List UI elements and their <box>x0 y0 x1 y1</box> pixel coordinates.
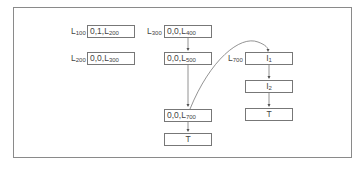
node-terminal-middle: T <box>164 133 212 146</box>
label-l700: L700 <box>228 53 243 66</box>
node-l100: 0,1,L200 <box>87 25 135 38</box>
node-l500: 0,0,L500 <box>164 52 212 65</box>
node-i1: I1 <box>245 52 293 65</box>
label-l300: L300 <box>147 26 162 39</box>
node-l200: 0,0,L300 <box>87 52 135 65</box>
label-l200: L200 <box>71 53 86 66</box>
node-l700: 0,0,L700 <box>164 109 212 122</box>
node-l300: 0,0,L400 <box>164 25 212 38</box>
node-i2: I2 <box>245 80 293 93</box>
node-terminal-right: T <box>245 108 293 121</box>
label-l100: L100 <box>71 26 86 39</box>
